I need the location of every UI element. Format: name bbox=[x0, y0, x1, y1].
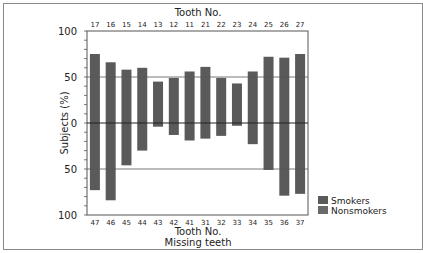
bar-bottom-36 bbox=[279, 123, 289, 196]
y-tick-label: 50 bbox=[64, 72, 77, 83]
legend-label-nonsmokers: Nonsmokers bbox=[331, 206, 387, 216]
plot-area: 1005005010017471646154514441343124211412… bbox=[58, 21, 308, 227]
bottom-category-label: 44 bbox=[138, 219, 147, 227]
top-category-label: 26 bbox=[280, 21, 289, 29]
bar-bottom-45 bbox=[121, 123, 131, 165]
bar-top-15 bbox=[121, 70, 131, 123]
y-tick-label: 50 bbox=[64, 164, 77, 175]
bar-bottom-46 bbox=[106, 123, 116, 200]
top-category-label: 14 bbox=[138, 21, 147, 29]
bottom-category-label: 36 bbox=[280, 219, 289, 227]
bottom-category-label: 42 bbox=[169, 219, 178, 227]
bottom-category-label: 35 bbox=[264, 219, 273, 227]
bar-top-16 bbox=[106, 62, 116, 123]
bar-bottom-41 bbox=[185, 123, 195, 140]
bar-top-21 bbox=[200, 67, 210, 123]
top-category-label: 11 bbox=[185, 21, 194, 29]
bottom-category-label: 47 bbox=[90, 219, 99, 227]
y-tick-label: 0 bbox=[71, 118, 77, 129]
legend: SmokersNonsmokers bbox=[318, 196, 387, 216]
top-category-label: 15 bbox=[122, 21, 131, 29]
top-category-label: 13 bbox=[154, 21, 163, 29]
bottom-category-label: 34 bbox=[248, 219, 257, 227]
bar-top-24 bbox=[248, 71, 258, 123]
bar-top-13 bbox=[153, 82, 163, 123]
bar-bottom-37 bbox=[295, 123, 305, 194]
bottom-axis-title: Tooth No. bbox=[174, 226, 222, 237]
top-category-label: 24 bbox=[248, 21, 257, 29]
y-tick-label: 100 bbox=[58, 26, 77, 37]
bar-top-14 bbox=[137, 68, 147, 123]
bar-top-25 bbox=[264, 57, 274, 123]
top-category-label: 17 bbox=[90, 21, 99, 29]
legend-swatch-smokers bbox=[318, 196, 328, 204]
bar-top-22 bbox=[216, 78, 226, 123]
bottom-category-label: 32 bbox=[217, 219, 226, 227]
legend-swatch-nonsmokers bbox=[318, 206, 328, 214]
top-category-label: 23 bbox=[233, 21, 242, 29]
bottom-category-label: 46 bbox=[106, 219, 115, 227]
top-category-label: 12 bbox=[169, 21, 178, 29]
bottom-category-label: 33 bbox=[233, 219, 242, 227]
top-category-label: 27 bbox=[296, 21, 305, 29]
legend-label-smokers: Smokers bbox=[331, 196, 370, 206]
top-category-label: 25 bbox=[264, 21, 273, 29]
bar-top-17 bbox=[90, 54, 100, 123]
bottom-category-label: 43 bbox=[154, 219, 163, 227]
top-axis-title: Tooth No. bbox=[174, 7, 222, 18]
bar-top-27 bbox=[295, 54, 305, 123]
bottom-category-label: 37 bbox=[296, 219, 305, 227]
bar-bottom-31 bbox=[200, 123, 210, 139]
bottom-category-label: 41 bbox=[185, 219, 194, 227]
bar-top-26 bbox=[279, 58, 289, 123]
bottom-category-label: 31 bbox=[201, 219, 210, 227]
bar-top-11 bbox=[185, 71, 195, 123]
top-category-label: 16 bbox=[106, 21, 115, 29]
top-category-label: 21 bbox=[201, 21, 210, 29]
bar-top-23 bbox=[232, 83, 242, 123]
bar-bottom-34 bbox=[248, 123, 258, 144]
bar-bottom-42 bbox=[169, 123, 179, 135]
y-tick-label: 100 bbox=[58, 210, 77, 221]
bar-bottom-44 bbox=[137, 123, 147, 151]
bar-bottom-35 bbox=[264, 123, 274, 170]
bar-top-12 bbox=[169, 78, 179, 123]
bottom-category-label: 45 bbox=[122, 219, 131, 227]
bar-bottom-32 bbox=[216, 123, 226, 136]
bar-bottom-47 bbox=[90, 123, 100, 190]
top-category-label: 22 bbox=[217, 21, 226, 29]
bottom-axis-subtitle: Missing teeth bbox=[165, 237, 232, 248]
y-axis-label: Subjects (%) bbox=[59, 91, 70, 154]
